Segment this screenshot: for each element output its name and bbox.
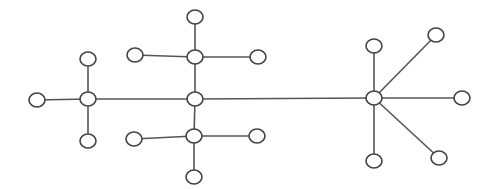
leaf-node-n3 xyxy=(80,52,96,66)
leaf-node-n4 xyxy=(80,134,96,148)
leaf-node-n7 xyxy=(127,48,143,62)
edge-n11-n10 xyxy=(134,136,194,139)
leaf-node-n12 xyxy=(249,129,265,143)
edge-n14-n18 xyxy=(374,98,439,158)
hub-node-n9 xyxy=(187,92,203,106)
edges-group xyxy=(37,17,462,177)
leaf-node-n18 xyxy=(431,151,447,165)
leaf-node-n15 xyxy=(366,39,382,53)
leaf-node-n19 xyxy=(366,154,382,168)
edge-n7-n6 xyxy=(135,55,195,57)
leaf-node-n16 xyxy=(428,28,444,42)
leaf-node-n8 xyxy=(250,50,266,64)
leaf-node-n13 xyxy=(186,170,202,184)
leaf-node-n11 xyxy=(126,132,142,146)
hub-node-n2 xyxy=(80,92,96,106)
edge-n14-n16 xyxy=(374,35,436,98)
leaf-node-n5 xyxy=(187,10,203,24)
nodes-group xyxy=(29,10,470,184)
hub-node-n6 xyxy=(187,50,203,64)
leaf-node-n1 xyxy=(29,93,45,107)
hub-node-n10 xyxy=(186,129,202,143)
tree-diagram xyxy=(0,0,494,189)
edge-n9-n14 xyxy=(195,98,374,99)
leaf-node-n17 xyxy=(454,91,470,105)
hub-node-n14 xyxy=(366,91,382,105)
